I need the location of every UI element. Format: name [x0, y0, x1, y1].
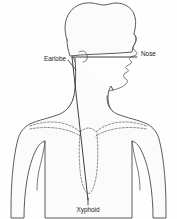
anatomy-illustration: Nose Earlobe Xyphoid: [0, 0, 177, 219]
torso-outline: [11, 96, 166, 218]
label-earlobe: Earlobe: [44, 55, 66, 62]
left-armpit-crease: [37, 141, 45, 190]
anatomy-figure: Nose Earlobe Xyphoid: [0, 0, 177, 219]
right-armpit-crease: [132, 141, 140, 190]
label-nose: Nose: [141, 50, 156, 57]
label-xyphoid: Xyphoid: [76, 206, 100, 214]
head-hair-outline: [65, 3, 136, 56]
